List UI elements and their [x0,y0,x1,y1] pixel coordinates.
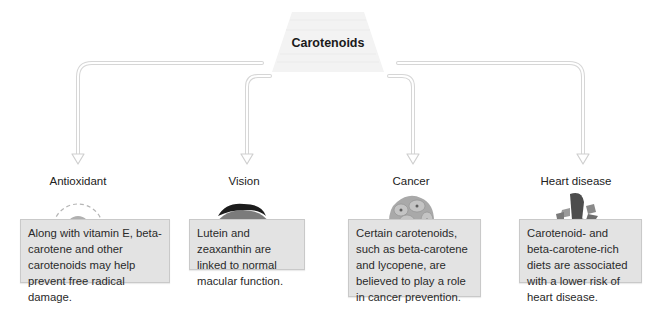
label-cancer: Cancer [351,175,471,187]
info-box-antioxidant: Along with vitamin E, beta-carotene and … [20,219,170,283]
info-box-heart-disease: Carotenoid- and beta-carotene-rich diets… [519,219,642,283]
label-vision: Vision [184,175,304,187]
label-antioxidant: Antioxidant [18,175,138,187]
arrowhead-vision [241,154,253,164]
arrowhead-antioxidant [72,154,84,164]
label-heart-disease: Heart disease [516,175,636,187]
diagram-title: Carotenoids [270,36,386,50]
arrowhead-heart [577,154,589,164]
arrowhead-cancer [407,154,419,164]
info-box-cancer: Certain carotenoids, such as beta-carote… [348,219,481,297]
info-box-vision: Lutein and zeaxanthin are linked to norm… [189,219,305,270]
